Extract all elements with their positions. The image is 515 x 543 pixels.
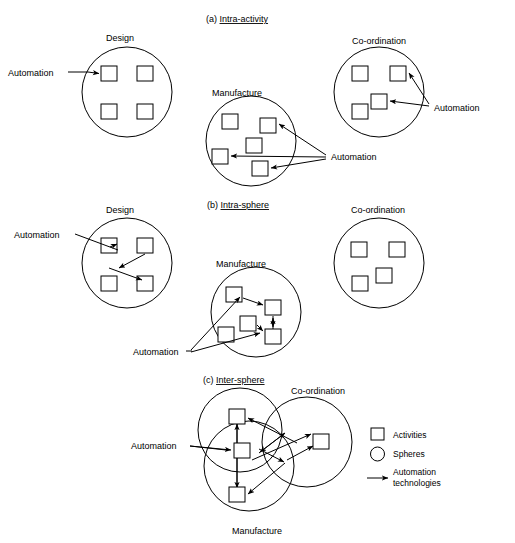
activity-square[interactable]	[352, 104, 368, 119]
square-icon	[371, 428, 384, 440]
diagram-canvas: (a) Intra-activity Design Automation Man…	[0, 0, 515, 543]
activity-square[interactable]	[389, 242, 405, 257]
activity-square[interactable]	[376, 268, 392, 283]
circle-icon	[371, 447, 385, 461]
automation-arrow	[287, 446, 313, 460]
sphere-label-coordination: Co-ordination	[291, 386, 345, 396]
automation-arrow	[248, 418, 297, 443]
legend-label-activities: Activities	[393, 430, 427, 440]
automation-arrow	[88, 72, 99, 74]
panel-a-callout-automation-design: Automation	[8, 68, 99, 78]
activity-square[interactable]	[101, 104, 117, 119]
automation-arrow	[257, 325, 263, 331]
activity-square[interactable]	[222, 114, 238, 129]
automation-label: Automation	[434, 103, 480, 113]
sphere-circle-design[interactable]	[82, 218, 172, 308]
activity-square[interactable]	[390, 66, 406, 81]
panel-c: (c) Inter-sphere Co-ordination Manufactu…	[131, 375, 352, 536]
activity-square[interactable]	[218, 327, 234, 342]
activity-square[interactable]	[212, 149, 228, 164]
activity-square[interactable]	[101, 276, 117, 291]
panel-a-sphere-manufacture[interactable]: Manufacture	[206, 88, 296, 186]
activity-square[interactable]	[234, 443, 250, 458]
activity-square[interactable]	[137, 238, 153, 253]
automation-label: Automation	[331, 152, 377, 162]
automation-label: Automation	[131, 441, 177, 451]
legend-label-spheres: Spheres	[393, 449, 425, 459]
panel-c-title: (c) Inter-sphere	[203, 375, 265, 385]
automation-label: Automation	[133, 347, 179, 357]
activity-square[interactable]	[229, 487, 245, 502]
activity-square[interactable]	[246, 138, 262, 153]
panel-a: (a) Intra-activity Design Automation Man…	[8, 14, 480, 186]
sphere-circle-coordination[interactable]	[262, 397, 352, 487]
panel-c-callout-automation: Automation	[131, 441, 231, 451]
sphere-circle-manufacture[interactable]	[211, 267, 301, 357]
automation-arrow	[119, 254, 145, 268]
activity-square[interactable]	[137, 104, 153, 119]
panel-a-prefix: (a)	[206, 14, 217, 24]
automation-arrow	[409, 73, 429, 104]
activity-square[interactable]	[351, 242, 367, 257]
legend-label-automation: Automation	[393, 467, 436, 477]
automation-label: Automation	[8, 68, 54, 78]
sphere-circle-coordination[interactable]	[334, 47, 424, 137]
sphere-label-design: Design	[106, 33, 134, 43]
panel-a-sphere-coordination[interactable]: Co-ordination	[334, 36, 424, 137]
automation-label: Automation	[14, 230, 60, 240]
automation-arrow	[190, 446, 231, 450]
panel-b-sphere-design[interactable]: Design	[82, 205, 172, 308]
activity-square[interactable]	[371, 94, 387, 109]
activity-square[interactable]	[137, 276, 153, 291]
automation-arrow	[248, 463, 285, 494]
activity-square[interactable]	[260, 118, 276, 133]
panel-b: (b) Intra-sphere Design Automation	[14, 200, 424, 357]
automation-arrow	[279, 124, 326, 155]
panel-c-title-text: Inter-sphere	[216, 375, 265, 385]
activity-square[interactable]	[265, 300, 281, 315]
sphere-label-coordination: Co-ordination	[351, 205, 405, 215]
sphere-label-design: Design	[106, 205, 134, 215]
automation-arrow	[271, 159, 326, 168]
sphere-circle-coordination[interactable]	[334, 218, 424, 308]
activity-square[interactable]	[137, 66, 153, 81]
activity-square[interactable]	[226, 287, 242, 302]
panel-b-title: (b) Intra-sphere	[207, 200, 269, 210]
activity-square[interactable]	[352, 66, 368, 81]
sphere-circle-design[interactable]	[198, 388, 282, 472]
sphere-circle-design[interactable]	[82, 47, 172, 137]
activity-square[interactable]	[265, 329, 281, 344]
automation-arrow	[260, 433, 285, 452]
activity-square[interactable]	[352, 276, 368, 291]
panel-b-prefix: (b)	[207, 200, 218, 210]
activity-square[interactable]	[240, 316, 256, 331]
activity-square[interactable]	[313, 434, 329, 449]
legend: Activities Spheres Automation technologi…	[367, 428, 441, 488]
legend-label-automation-2: technologies	[393, 478, 441, 488]
panel-b-title-text: Intra-sphere	[221, 200, 270, 210]
automation-arrow	[243, 298, 263, 305]
automation-arrow	[231, 156, 326, 157]
panel-b-sphere-coordination[interactable]: Co-ordination	[334, 205, 424, 308]
activity-square[interactable]	[101, 66, 117, 81]
figure-root: (a) Intra-activity Design Automation Man…	[0, 0, 515, 543]
activity-square[interactable]	[252, 161, 268, 176]
panel-a-sphere-design[interactable]: Design	[82, 33, 172, 137]
panel-a-title-text: Intra-activity	[220, 14, 269, 24]
activity-square[interactable]	[229, 409, 245, 424]
panel-a-title: (a) Intra-activity	[206, 14, 269, 24]
panel-c-prefix: (c)	[203, 375, 214, 385]
sphere-label-coordination: Co-ordination	[352, 36, 406, 46]
sphere-label-manufacture: Manufacture	[232, 526, 282, 536]
